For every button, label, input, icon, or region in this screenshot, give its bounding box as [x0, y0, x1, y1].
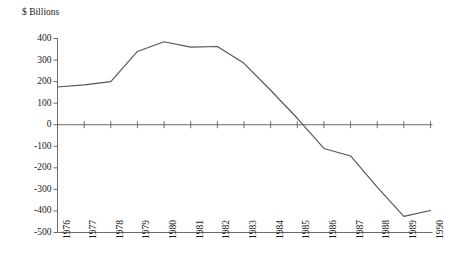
x-axis-tick-label: 1979 [141, 220, 151, 239]
x-axis-tick-label: 1987 [355, 220, 365, 239]
x-axis-tick-label: 1990 [435, 220, 445, 239]
x-axis-tick-label: 1989 [408, 220, 418, 239]
x-axis-tick-label: 1985 [301, 220, 311, 239]
x-axis-tick-label: 1978 [115, 220, 125, 239]
y-axis-tick-label: -100 [18, 141, 52, 151]
y-axis-tick-label: 400 [18, 33, 52, 43]
x-axis-tick-label: 1976 [62, 220, 72, 239]
x-axis-tick-label: 1986 [328, 220, 338, 239]
x-axis-tick-label: 1982 [221, 220, 231, 239]
y-axis-tick-label: -200 [18, 162, 52, 172]
y-axis-tick-label: 100 [18, 98, 52, 108]
x-axis-tick-label: 1988 [381, 220, 391, 239]
chart-container: $ Billions 4003002001000-100-200-300-400… [0, 0, 454, 276]
y-axis-tick-label: -300 [18, 184, 52, 194]
axes-group [54, 39, 433, 233]
y-axis-tick-label: -500 [18, 227, 52, 237]
y-axis-tick-label: -400 [18, 205, 52, 215]
x-axis-tick-label: 1981 [195, 220, 205, 239]
y-axis-tick-label: 300 [18, 55, 52, 65]
x-axis-tick-label: 1980 [168, 220, 178, 239]
series-line [58, 42, 431, 217]
data-series-line [58, 42, 431, 217]
x-axis-tick-label: 1977 [88, 220, 98, 239]
x-axis-tick-label: 1984 [275, 220, 285, 239]
y-axis-tick-label: 200 [18, 76, 52, 86]
x-axis-tick-label: 1983 [248, 220, 258, 239]
y-axis-tick-label: 0 [18, 119, 52, 129]
